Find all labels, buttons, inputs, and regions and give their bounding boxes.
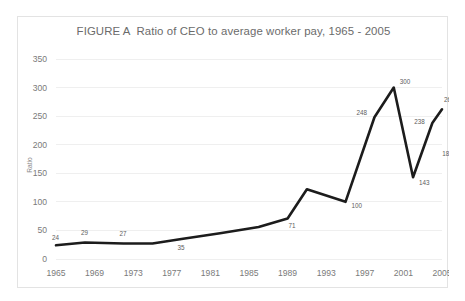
data-point-label: 300	[400, 78, 411, 85]
x-axis-tick-label: 1997	[355, 268, 374, 278]
data-point-label: 238	[414, 118, 425, 125]
y-axis-tick-label: 100	[33, 197, 48, 207]
y-axis-tick-label: 50	[37, 225, 47, 235]
x-axis-tick-label: 1981	[201, 268, 220, 278]
x-axis-tick-label: 1985	[239, 268, 258, 278]
y-axis-tick-label: 200	[33, 140, 48, 150]
series-line-ceo-pay-ratio	[56, 88, 442, 246]
data-point-label: 24	[52, 234, 60, 241]
y-axis-tick-label: 250	[33, 111, 48, 121]
x-axis-tick-label: 1973	[124, 268, 143, 278]
data-point-label: 71	[289, 222, 297, 229]
y-axis-tick-label: 300	[33, 83, 48, 93]
data-point-label: 181	[442, 150, 449, 157]
data-point-label: 29	[81, 229, 89, 236]
x-axis-tick-label: 1969	[85, 268, 104, 278]
x-axis-tick-label: 1993	[317, 268, 336, 278]
y-axis-tick-labels: 050100150200250300350	[33, 54, 48, 264]
data-point-label: 35	[177, 244, 185, 251]
x-axis-tick-label: 1965	[46, 268, 65, 278]
x-axis-tick-label: 1977	[162, 268, 181, 278]
line-chart-plot: 050100150200250300350 196519691973197719…	[18, 17, 449, 289]
x-axis-tick-label: 2001	[394, 268, 413, 278]
chart-card: FIGURE A Ratio of CEO to average worker …	[17, 16, 448, 288]
y-axis-title: Ratio	[26, 157, 33, 173]
x-axis-tick-label: 2005	[432, 268, 449, 278]
y-axis-tick-label: 0	[42, 254, 47, 264]
data-point-labels: 2429273571100248300143238181262	[52, 78, 449, 251]
data-point-label: 143	[419, 179, 430, 186]
data-point-label: 100	[352, 202, 363, 209]
x-axis-tick-labels: 1965196919731977198119851989199319972001…	[46, 268, 449, 278]
y-axis-tick-label: 150	[33, 168, 48, 178]
data-point-label: 27	[120, 230, 128, 237]
y-axis-tick-label: 350	[33, 54, 48, 64]
data-point-label: 262	[444, 96, 449, 103]
x-axis-tick-label: 1989	[278, 268, 297, 278]
data-point-label: 248	[356, 109, 367, 116]
